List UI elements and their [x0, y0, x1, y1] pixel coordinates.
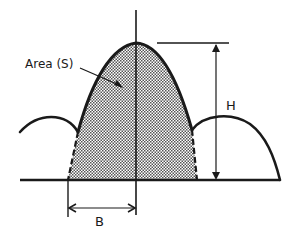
- diagram-canvas: H B Area (S): [0, 0, 296, 240]
- half-base-label: B: [95, 214, 104, 229]
- height-label: H: [226, 98, 236, 113]
- height-arrow-top-icon: [212, 44, 220, 52]
- shaded-area-region: [68, 43, 197, 180]
- right-neighbor-peak: [192, 116, 280, 180]
- area-label: Area (S): [25, 57, 73, 71]
- left-neighbor-peak: [20, 117, 78, 132]
